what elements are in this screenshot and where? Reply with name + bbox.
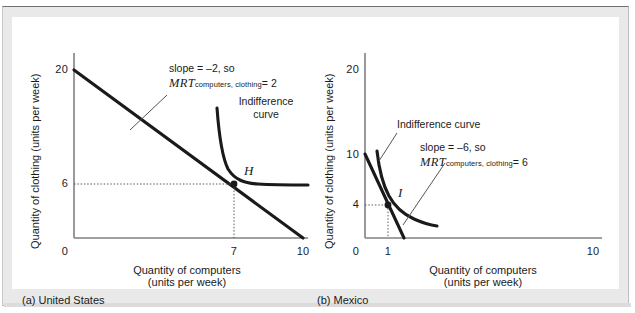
- slope-callout-b-line1: slope = –6, so: [420, 140, 528, 154]
- y-tick-b-4: 4: [325, 198, 359, 211]
- panel-caption-b: (b) Mexico: [317, 294, 368, 307]
- slope-callout-a-line2: MRTcomputers, clothing= 2: [169, 75, 277, 92]
- point-label-i: I: [398, 186, 402, 201]
- indifference-label-b: Indifference curve: [397, 118, 480, 130]
- x-axis-title-a-line2: (units per week): [117, 276, 257, 290]
- x-axis-title-b-line2: (units per week): [413, 276, 553, 290]
- y-tick-a-20: 20: [32, 63, 68, 76]
- point-marker-i: [385, 202, 392, 209]
- y-tick-a-0: 0: [32, 245, 68, 258]
- x-tick-a-7: 7: [228, 245, 240, 258]
- x-tick-b-1: 1: [382, 245, 394, 258]
- mrt-subscript-b: computers, clothing: [446, 159, 513, 168]
- slope-callout-a: slope = –2, so MRTcomputers, clothing= 2: [169, 61, 277, 92]
- y-tick-b-0: 0: [325, 245, 359, 258]
- figure-root: Quantity of clothing (units per week) 20…: [0, 0, 635, 313]
- point-label-h: H: [244, 164, 253, 179]
- x-tick-b-10: 10: [584, 245, 602, 258]
- slope-callout-b-line2: MRTcomputers, clothing= 6: [420, 154, 528, 171]
- x-tick-a-10: 10: [294, 245, 312, 258]
- leader-line-slope-b: [403, 163, 445, 225]
- panel-caption-a: (a) United States: [22, 294, 105, 307]
- y-tick-b-20: 20: [325, 63, 359, 76]
- indifference-label-a-line1: Indifference: [224, 95, 308, 109]
- y-tick-b-10: 10: [325, 148, 359, 161]
- slope-callout-b: slope = –6, so MRTcomputers, clothing= 6: [420, 140, 528, 171]
- point-marker-h: [231, 181, 238, 188]
- panel-mexico: Quantity of clothing (units per week) 20…: [317, 17, 619, 289]
- slope-callout-a-line1: slope = –2, so: [169, 61, 277, 75]
- y-axis-title-b: Quantity of clothing (units per week): [323, 74, 336, 249]
- indifference-label-a-line2: curve: [224, 108, 308, 122]
- leader-line-indifference-b: [379, 133, 397, 161]
- mrt-value-b: = 6: [513, 156, 528, 168]
- mrt-subscript-a: computers, clothing: [195, 80, 262, 89]
- y-tick-a-6: 6: [32, 177, 68, 190]
- mrt-symbol-b: MRT: [420, 155, 446, 169]
- figure-inner-plate: Quantity of clothing (units per week) 20…: [12, 17, 619, 289]
- y-axis-title-a: Quantity of clothing (units per week): [29, 74, 42, 249]
- mrt-symbol-a: MRT: [169, 76, 195, 90]
- mrt-value-a: = 2: [262, 77, 277, 89]
- panel-united-states: Quantity of clothing (units per week) 20…: [12, 17, 317, 289]
